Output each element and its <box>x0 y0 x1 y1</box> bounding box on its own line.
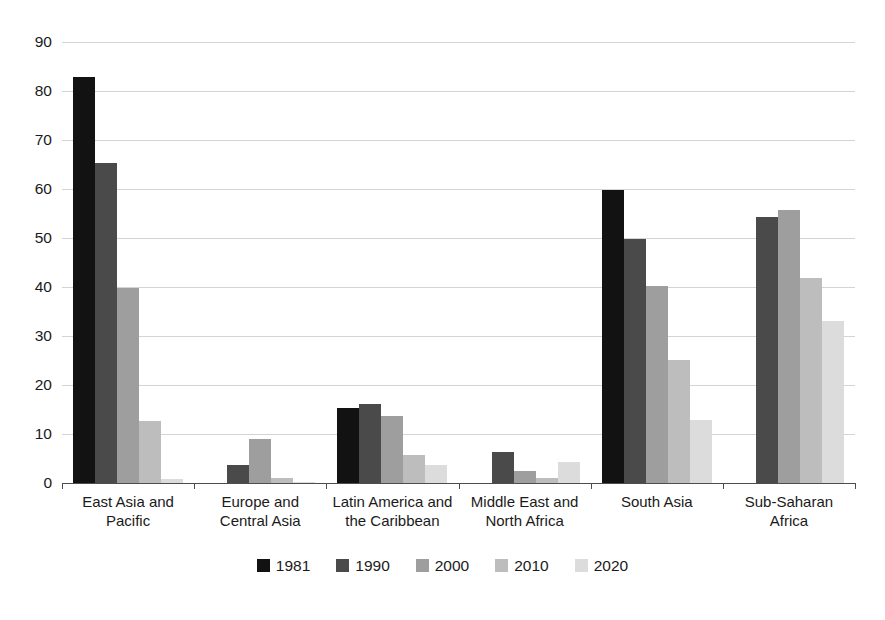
bar-2000[interactable] <box>778 210 800 483</box>
y-axis-tick-label: 80 <box>6 83 52 99</box>
bar-2020[interactable] <box>425 465 447 483</box>
bar-1990[interactable] <box>492 452 514 483</box>
bar-group <box>194 42 326 483</box>
legend-swatch-icon <box>336 559 349 572</box>
y-axis-tick-label: 0 <box>6 475 52 491</box>
bar-2000[interactable] <box>249 439 271 483</box>
y-axis-tick-label: 10 <box>6 426 52 442</box>
bar-1990[interactable] <box>95 163 117 483</box>
bar-1990[interactable] <box>756 217 778 483</box>
x-axis-tick <box>326 483 327 489</box>
bar-2010[interactable] <box>403 455 425 483</box>
legend-swatch-icon <box>257 559 270 572</box>
bar-1981[interactable] <box>73 77 95 483</box>
bar-group <box>591 42 723 483</box>
bars <box>205 42 315 483</box>
bar-1990[interactable] <box>359 404 381 483</box>
legend-label: 1981 <box>276 558 310 574</box>
legend-item-1990[interactable]: 1990 <box>336 558 389 574</box>
bar-2020[interactable] <box>558 462 580 483</box>
y-axis-tick-label: 40 <box>6 279 52 295</box>
category-label: South Asia <box>591 492 723 530</box>
category-label: Sub-Saharan Africa <box>723 492 855 530</box>
bar-group <box>459 42 591 483</box>
legend-label: 2010 <box>514 558 548 574</box>
legend-item-2020[interactable]: 2020 <box>575 558 628 574</box>
bars <box>73 42 183 483</box>
bar-2020[interactable] <box>822 321 844 483</box>
legend-item-2000[interactable]: 2000 <box>416 558 469 574</box>
bar-2020[interactable] <box>690 420 712 483</box>
bar-2000[interactable] <box>646 286 668 483</box>
legend-item-1981[interactable]: 1981 <box>257 558 310 574</box>
legend: 19811990200020102020 <box>0 558 885 574</box>
bar-chart: 0102030405060708090 East Asia and Pacifi… <box>0 0 885 620</box>
bar-group <box>723 42 855 483</box>
y-axis: 0102030405060708090 <box>0 42 52 483</box>
bar-1990[interactable] <box>227 465 249 483</box>
legend-swatch-icon <box>575 559 588 572</box>
bars <box>337 42 447 483</box>
bar-1981[interactable] <box>602 190 624 484</box>
category-label: Latin America and the Caribbean <box>326 492 458 530</box>
x-axis-tick <box>591 483 592 489</box>
bars <box>734 42 844 483</box>
y-axis-tick-label: 50 <box>6 230 52 246</box>
bar-group <box>326 42 458 483</box>
legend-label: 2000 <box>435 558 469 574</box>
y-axis-tick-label: 70 <box>6 132 52 148</box>
x-axis-tick <box>723 483 724 489</box>
bar-2010[interactable] <box>800 278 822 483</box>
bar-groups <box>62 42 855 483</box>
x-axis-category-labels: East Asia and PacificEurope and Central … <box>62 492 855 530</box>
bar-group <box>62 42 194 483</box>
legend-swatch-icon <box>416 559 429 572</box>
bar-2000[interactable] <box>117 288 139 483</box>
bar-2000[interactable] <box>381 416 403 483</box>
x-axis-tick <box>62 483 63 489</box>
x-axis-tick <box>194 483 195 489</box>
category-label: Europe and Central Asia <box>194 492 326 530</box>
category-label: East Asia and Pacific <box>62 492 194 530</box>
bar-1990[interactable] <box>624 239 646 484</box>
legend-swatch-icon <box>495 559 508 572</box>
category-label: Middle East and North Africa <box>459 492 591 530</box>
legend-item-2010[interactable]: 2010 <box>495 558 548 574</box>
legend-label: 1990 <box>355 558 389 574</box>
y-axis-tick-label: 90 <box>6 34 52 50</box>
y-axis-tick-label: 20 <box>6 377 52 393</box>
legend-label: 2020 <box>594 558 628 574</box>
bars <box>470 42 580 483</box>
bar-2000[interactable] <box>514 471 536 483</box>
y-axis-tick-label: 60 <box>6 181 52 197</box>
bars <box>602 42 712 483</box>
y-axis-tick-label: 30 <box>6 328 52 344</box>
bar-2010[interactable] <box>668 360 690 483</box>
bar-1981[interactable] <box>337 408 359 483</box>
bar-2010[interactable] <box>139 421 161 483</box>
x-axis-tick <box>855 483 856 489</box>
x-axis-tick <box>459 483 460 489</box>
